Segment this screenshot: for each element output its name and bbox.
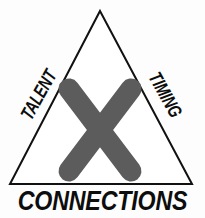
label-connections: CONNECTIONS (14, 186, 190, 217)
success-triangle-diagram: TALENT TIMING CONNECTIONS (0, 0, 205, 218)
